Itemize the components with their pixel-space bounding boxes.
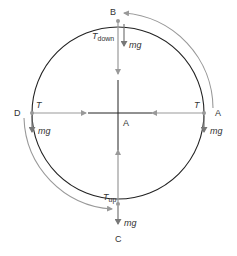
label-mg-top: mg [129,40,142,50]
label-D: D [14,108,21,118]
label-B: B [110,7,116,17]
point-C [116,202,120,206]
label-mg-right: mg [210,126,223,136]
vertical-circle-diagram: B A D C A Tdown Tup T T mg mg mg mg [0,0,237,256]
label-T-up: Tup [103,192,116,204]
point-A-right [202,111,206,115]
label-center-A: A [123,118,129,128]
point-D [30,111,34,115]
label-T-down: Tdown [92,31,114,42]
label-T-right: T [194,100,201,110]
label-mg-bottom: mg [124,218,137,228]
label-T-left: T [36,100,43,110]
label-C: C [115,234,122,244]
point-B [116,19,120,23]
label-mg-left: mg [38,126,51,136]
motion-arc-top-right [124,13,213,108]
label-A-right: A [215,108,221,118]
